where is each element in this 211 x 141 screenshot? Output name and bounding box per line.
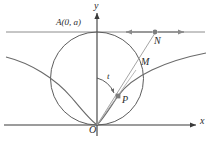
point-P-dot	[116, 94, 121, 99]
angle-t-label: t	[107, 72, 110, 81]
y-axis-label: y	[94, 1, 98, 11]
point-N-dot	[153, 30, 158, 35]
point-A-label: A(0, a)	[56, 18, 81, 27]
cissoid-right-branch	[97, 53, 206, 125]
angle-t-arc	[97, 78, 114, 93]
point-P-label: P	[122, 95, 128, 105]
point-N-label: N	[154, 36, 161, 46]
diagram-canvas	[0, 0, 211, 141]
x-axis-label: x	[200, 116, 204, 126]
point-M-label: M	[141, 57, 149, 67]
ray-O-to-N	[97, 33, 155, 125]
origin-label: O	[89, 125, 96, 135]
geometry-figure: y x O A(0, a) N M P t	[0, 0, 211, 141]
